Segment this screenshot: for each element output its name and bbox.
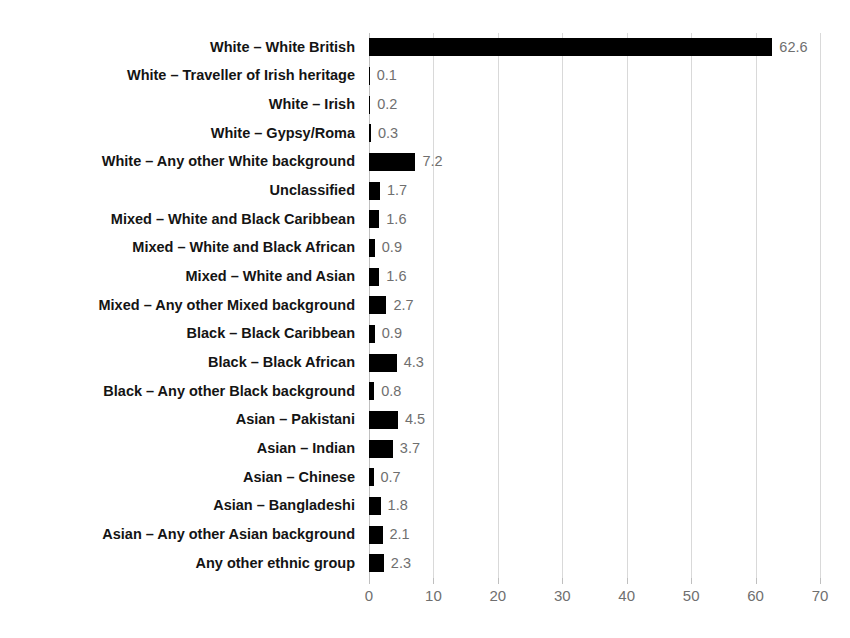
- category-label: Mixed – White and Black Caribbean: [111, 212, 355, 228]
- category-label-row: White – Any other White background: [0, 148, 355, 177]
- category-label-row: Mixed – Any other Mixed background: [0, 291, 355, 320]
- bar-value-label: 4.5: [405, 412, 425, 428]
- bar-value-label: 2.3: [391, 556, 411, 572]
- bar-row: 0.7: [369, 463, 820, 492]
- x-tick-label-30: 30: [554, 588, 571, 603]
- x-tick-40: [627, 578, 628, 584]
- bar-row: 0.9: [369, 320, 820, 349]
- category-label-row: Any other ethnic group: [0, 549, 355, 578]
- category-label-row: White – Irish: [0, 90, 355, 119]
- category-label: White – Traveller of Irish heritage: [127, 68, 355, 84]
- bar-row: 0.8: [369, 377, 820, 406]
- category-label: Mixed – Any other Mixed background: [99, 298, 355, 314]
- bar-value-label: 4.3: [404, 355, 424, 371]
- bar-row: 0.2: [369, 90, 820, 119]
- bar-value-label: 0.8: [381, 384, 401, 400]
- bar-row: 0.3: [369, 119, 820, 148]
- bar-row: 1.8: [369, 492, 820, 521]
- category-label: Asian – Chinese: [243, 470, 355, 486]
- bar-row: 2.3: [369, 549, 820, 578]
- bar: [369, 296, 386, 314]
- bar-value-label: 2.7: [393, 298, 413, 314]
- bar-value-label: 1.7: [387, 183, 407, 199]
- bar-value-label: 3.7: [400, 441, 420, 457]
- x-tick-label-60: 60: [747, 588, 764, 603]
- bar: [369, 268, 379, 286]
- bar: [369, 325, 375, 343]
- category-label-row: Asian – Bangladeshi: [0, 492, 355, 521]
- category-label-row: Mixed – White and Black Caribbean: [0, 205, 355, 234]
- category-label-row: Asian – Chinese: [0, 463, 355, 492]
- category-label: Black – Black Caribbean: [187, 326, 355, 342]
- category-label-row: Black – Any other Black background: [0, 377, 355, 406]
- category-label: Asian – Any other Asian background: [102, 527, 355, 543]
- bar-value-label: 62.6: [779, 40, 807, 56]
- bar-row: 0.1: [369, 62, 820, 91]
- bar-row: 4.3: [369, 348, 820, 377]
- x-axis-tick-labels: 010203040506070: [0, 588, 850, 610]
- x-tick-label-70: 70: [812, 588, 829, 603]
- category-label: Any other ethnic group: [196, 556, 356, 572]
- bar-value-label: 1.8: [388, 498, 408, 514]
- category-label-row: Unclassified: [0, 176, 355, 205]
- bar: [369, 468, 374, 486]
- bar-row: 4.5: [369, 406, 820, 435]
- category-label-row: Asian – Pakistani: [0, 406, 355, 435]
- category-label: White – Any other White background: [102, 154, 355, 170]
- category-label: Black – Black African: [208, 355, 355, 371]
- bar: [369, 96, 370, 114]
- category-label-row: Asian – Indian: [0, 434, 355, 463]
- x-tick-label-50: 50: [683, 588, 700, 603]
- bar-value-label: 0.1: [377, 68, 397, 84]
- x-tick-label-40: 40: [618, 588, 635, 603]
- bar-row: 1.6: [369, 262, 820, 291]
- x-axis-ticks: [369, 578, 820, 584]
- bar-row: 2.7: [369, 291, 820, 320]
- category-label-row: White – Traveller of Irish heritage: [0, 62, 355, 91]
- bar: [369, 239, 375, 257]
- bar: [369, 382, 374, 400]
- category-label: Black – Any other Black background: [103, 384, 355, 400]
- bar: [369, 153, 415, 171]
- bar-chart: White – White BritishWhite – Traveller o…: [0, 0, 850, 638]
- bar-value-label: 0.9: [382, 326, 402, 342]
- chart-title: [0, 0, 850, 4]
- category-label-row: Black – Black African: [0, 348, 355, 377]
- x-tick-label-10: 10: [425, 588, 442, 603]
- x-tick-70: [820, 578, 821, 584]
- category-label: Asian – Bangladeshi: [213, 498, 355, 514]
- category-label-row: Black – Black Caribbean: [0, 320, 355, 349]
- bar-value-label: 0.2: [377, 97, 397, 113]
- x-tick-label-0: 0: [365, 588, 373, 603]
- bar-value-label: 0.3: [378, 126, 398, 142]
- bar-row: 3.7: [369, 434, 820, 463]
- category-label: Mixed – White and Black African: [132, 240, 355, 256]
- x-tick-50: [691, 578, 692, 584]
- bar-row: 62.6: [369, 33, 820, 62]
- bar-row: 0.9: [369, 234, 820, 263]
- bar: [369, 411, 398, 429]
- bar-value-label: 7.2: [422, 154, 442, 170]
- bar: [369, 124, 371, 142]
- bar: [369, 38, 772, 56]
- bar: [369, 554, 384, 572]
- category-label-row: Mixed – White and Asian: [0, 262, 355, 291]
- bar: [369, 354, 397, 372]
- category-label: White – Gypsy/Roma: [211, 126, 355, 142]
- bar: [369, 497, 381, 515]
- category-label: Mixed – White and Asian: [186, 269, 355, 285]
- bar: [369, 526, 383, 544]
- category-label: White – White British: [210, 40, 355, 56]
- category-label-row: Asian – Any other Asian background: [0, 520, 355, 549]
- bar-value-label: 0.7: [381, 470, 401, 486]
- category-label: Asian – Indian: [257, 441, 355, 457]
- category-label-row: White – White British: [0, 33, 355, 62]
- x-tick-0: [369, 578, 370, 584]
- bar-row: 1.6: [369, 205, 820, 234]
- x-tick-20: [498, 578, 499, 584]
- x-tick-10: [433, 578, 434, 584]
- bar-value-label: 1.6: [386, 269, 406, 285]
- bar: [369, 182, 380, 200]
- category-label-row: White – Gypsy/Roma: [0, 119, 355, 148]
- bar-value-label: 2.1: [390, 527, 410, 543]
